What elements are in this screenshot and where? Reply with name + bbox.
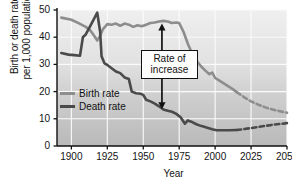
legend-swatch-icon [60,92,75,95]
annotation-line2: increase [143,64,196,75]
legend-swatch-icon [60,105,75,108]
x-axis-title: Year [55,168,292,179]
plot-area [0,0,292,185]
chart-container: Birth or death rate per 1,000 population… [0,0,292,185]
legend-label: Birth rate [79,87,120,100]
annotation-rate-of-increase: Rate of increase [141,50,198,79]
legend-label: Death rate [79,100,126,113]
legend-item-1: Death rate [60,100,126,113]
annotation-line1: Rate of [143,53,196,64]
chart-legend: Birth rateDeath rate [60,87,126,113]
legend-item-0: Birth rate [60,87,126,100]
